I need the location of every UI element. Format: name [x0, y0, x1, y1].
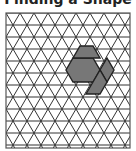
- lattice-lines: [0, 13, 136, 151]
- shaded-shapes: [66, 46, 114, 94]
- grid-border: [6, 13, 130, 148]
- triangle-grid-diagram: [0, 0, 136, 151]
